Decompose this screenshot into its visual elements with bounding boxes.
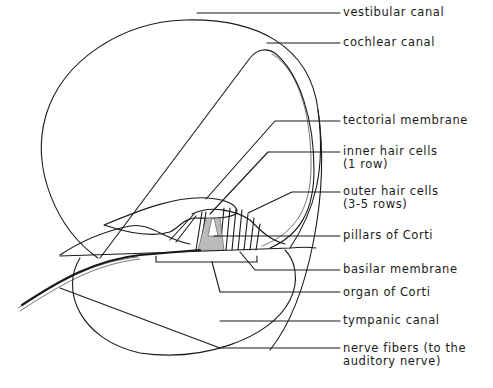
- leader-basilar-membrane: [240, 252, 340, 270]
- cochlea-diagram: vestibular canal cochlear canal tectoria…: [0, 0, 493, 388]
- label-cochlear-canal: cochlear canal: [343, 36, 435, 49]
- nerve-fibers-strand-2: [20, 259, 140, 311]
- label-subtext: (1 row): [343, 158, 438, 171]
- vestibular-canal-outline: [41, 20, 320, 258]
- label-pillars-of-corti: pillars of Corti: [343, 229, 433, 242]
- label-tympanic-canal: tympanic canal: [343, 314, 440, 327]
- label-basilar-membrane: basilar membrane: [343, 263, 458, 276]
- label-subtext: auditory nerve): [343, 355, 466, 368]
- organ-of-corti-bracket-stem: [212, 262, 340, 292]
- label-text: cochlear canal: [343, 35, 435, 49]
- label-text: basilar membrane: [343, 262, 458, 276]
- label-outer-hair-cells: outer hair cells (3-5 rows): [343, 185, 439, 211]
- pillars-of-corti-shape: [198, 218, 224, 250]
- label-nerve-fibers: nerve fibers (to the auditory nerve): [343, 342, 466, 368]
- label-text: pillars of Corti: [343, 228, 433, 242]
- label-subtext: (3-5 rows): [343, 198, 439, 211]
- tympanic-canal-outline: [73, 250, 296, 355]
- label-inner-hair-cells: inner hair cells (1 row): [343, 145, 438, 171]
- nerve-fibers-strand: [18, 257, 138, 308]
- nerve-fibers-bundle: [22, 250, 200, 305]
- label-tectorial-membrane: tectorial membrane: [343, 114, 468, 127]
- label-organ-of-corti: organ of Corti: [343, 286, 431, 299]
- label-vestibular-canal: vestibular canal: [343, 6, 444, 19]
- leader-outer-hair-cells: [248, 192, 340, 213]
- organ-of-corti-bracket: [156, 256, 257, 262]
- label-text: tectorial membrane: [343, 113, 468, 127]
- label-text: organ of Corti: [343, 285, 431, 299]
- label-text: tympanic canal: [343, 313, 440, 327]
- label-text: vestibular canal: [343, 5, 444, 19]
